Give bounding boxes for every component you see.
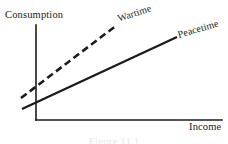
consumption-income-figure: Consumption Income Wartime Peacetime Fig… xyxy=(0,0,228,144)
figure-caption: Figure 11.1 xyxy=(0,136,228,144)
peacetime-curve xyxy=(22,37,177,109)
y-axis-title: Consumption xyxy=(5,9,63,20)
x-axis-title: Income xyxy=(189,121,221,132)
